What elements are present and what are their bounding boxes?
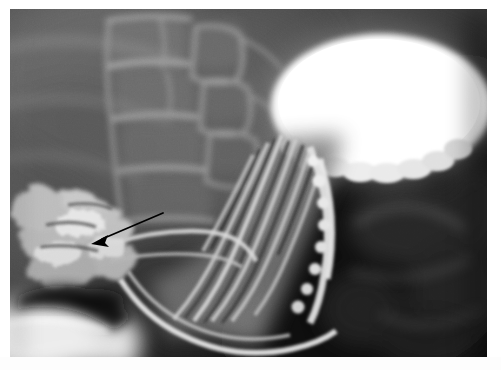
page-margin-right — [487, 0, 501, 370]
radiograph-canvas — [10, 9, 487, 357]
page-margin-top — [0, 0, 501, 9]
page-margin-left — [0, 0, 10, 370]
radiograph-page — [0, 0, 501, 370]
film-grain — [10, 9, 487, 357]
radiograph-plate — [10, 9, 487, 357]
caption-strip — [0, 357, 501, 370]
